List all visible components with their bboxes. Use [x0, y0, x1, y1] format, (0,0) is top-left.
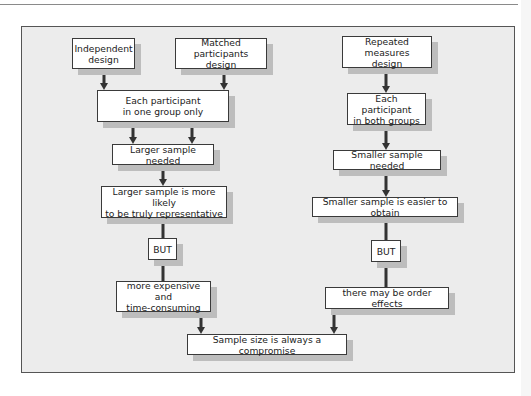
node-smaller-sample-easier: Smaller sample is easier to obtain	[312, 197, 458, 217]
node-independent-design: Independent design	[72, 38, 135, 69]
node-each-participant-one-group: Each participant in one group only	[97, 90, 229, 122]
node-smaller-sample-needed: Smaller sample needed	[333, 150, 441, 170]
node-but-left: BUT	[148, 238, 177, 260]
node-but-right: BUT	[371, 240, 401, 262]
node-larger-sample-representative: Larger sample is more likely to be truly…	[101, 186, 227, 218]
node-larger-sample-needed: Larger sample needed	[112, 144, 214, 165]
node-each-participant-both-groups: Each participant in both groups	[347, 93, 426, 125]
node-order-effects: there may be order effects	[325, 287, 449, 309]
node-repeated-measures-design: Repeated measures design	[342, 36, 432, 68]
node-sample-size-compromise: Sample size is always a compromise	[187, 334, 347, 355]
node-matched-participants-design: Matched participants design	[175, 38, 267, 69]
node-more-expensive: more expensive and time-consuming	[116, 281, 211, 312]
